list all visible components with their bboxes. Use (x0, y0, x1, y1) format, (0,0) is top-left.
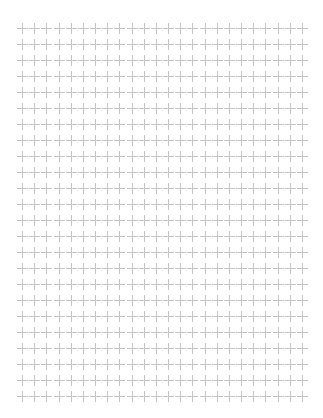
plus-icon (200, 279, 211, 290)
plus-icon (224, 343, 235, 354)
plus-icon (236, 375, 247, 386)
plus-icon (54, 231, 65, 242)
plus-icon (212, 263, 223, 274)
plus-icon (78, 263, 89, 274)
plus-icon (151, 247, 162, 258)
plus-icon (66, 295, 77, 306)
plus-icon (78, 55, 89, 66)
plus-icon (66, 343, 77, 354)
plus-icon (102, 55, 113, 66)
plus-icon (127, 311, 138, 322)
plus-icon (248, 327, 259, 338)
plus-icon (273, 327, 284, 338)
plus-icon (66, 263, 77, 274)
plus-icon (102, 327, 113, 338)
plus-icon (114, 327, 125, 338)
plus-icon (163, 327, 174, 338)
plus-icon (248, 71, 259, 82)
plus-icon (285, 135, 296, 146)
plus-icon (90, 119, 101, 130)
plus-icon (102, 247, 113, 258)
plus-icon (102, 311, 113, 322)
plus-icon (41, 39, 52, 50)
plus-icon (102, 263, 113, 274)
plus-icon (29, 327, 40, 338)
plus-icon (151, 87, 162, 98)
plus-icon (17, 183, 28, 194)
plus-icon (41, 359, 52, 370)
plus-icon (78, 23, 89, 34)
plus-icon (212, 295, 223, 306)
plus-icon (127, 119, 138, 130)
plus-icon (297, 135, 308, 146)
plus-icon (187, 311, 198, 322)
plus-icon (260, 247, 271, 258)
plus-icon (297, 119, 308, 130)
plus-icon (29, 247, 40, 258)
plus-icon (151, 327, 162, 338)
plus-icon (200, 183, 211, 194)
plus-icon (236, 55, 247, 66)
plus-icon (151, 55, 162, 66)
plus-icon (90, 183, 101, 194)
plus-icon (41, 279, 52, 290)
plus-icon (212, 135, 223, 146)
plus-icon (285, 263, 296, 274)
plus-icon (102, 391, 113, 402)
plus-icon (187, 39, 198, 50)
plus-icon (66, 39, 77, 50)
plus-icon (139, 215, 150, 226)
plus-icon (54, 87, 65, 98)
plus-icon (139, 135, 150, 146)
plus-icon (187, 103, 198, 114)
plus-icon (139, 375, 150, 386)
plus-icon (17, 87, 28, 98)
plus-icon (285, 311, 296, 322)
plus-icon (212, 23, 223, 34)
plus-icon (29, 375, 40, 386)
plus-icon (29, 183, 40, 194)
plus-icon (78, 183, 89, 194)
plus-icon (285, 343, 296, 354)
plus-icon (248, 119, 259, 130)
plus-icon (66, 391, 77, 402)
plus-icon (127, 71, 138, 82)
plus-icon (41, 119, 52, 130)
plus-icon (54, 103, 65, 114)
plus-icon (41, 231, 52, 242)
plus-icon (151, 119, 162, 130)
plus-icon (151, 167, 162, 178)
plus-icon (127, 151, 138, 162)
plus-icon (285, 231, 296, 242)
plus-icon (102, 71, 113, 82)
plus-icon (114, 343, 125, 354)
plus-icon (102, 87, 113, 98)
plus-icon (224, 215, 235, 226)
plus-icon (54, 359, 65, 370)
plus-icon (66, 375, 77, 386)
plus-icon (127, 55, 138, 66)
plus-icon (236, 327, 247, 338)
plus-icon (151, 71, 162, 82)
plus-icon (224, 199, 235, 210)
plus-icon (90, 103, 101, 114)
plus-icon (102, 231, 113, 242)
plus-icon (297, 247, 308, 258)
plus-icon (248, 247, 259, 258)
plus-icon (236, 87, 247, 98)
plus-icon (297, 295, 308, 306)
plus-icon (139, 263, 150, 274)
plus-icon (54, 343, 65, 354)
plus-icon (139, 295, 150, 306)
plus-icon (273, 247, 284, 258)
plus-icon (163, 359, 174, 370)
plus-icon (212, 343, 223, 354)
plus-icon (200, 391, 211, 402)
plus-icon (66, 119, 77, 130)
plus-icon (78, 295, 89, 306)
plus-icon (248, 135, 259, 146)
plus-icon (41, 199, 52, 210)
plus-icon (66, 199, 77, 210)
plus-icon (212, 391, 223, 402)
plus-icon (78, 231, 89, 242)
